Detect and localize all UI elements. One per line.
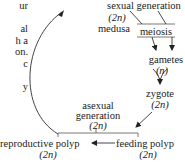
sexual-generation-label: sexual generation xyxy=(100,0,185,11)
gametes-label: gametes xyxy=(144,54,185,65)
node-sexual-generation: sexual generation xyxy=(100,0,185,11)
medusa-label: medusa xyxy=(94,23,134,34)
zygote-ploidy: (2n) xyxy=(146,99,174,110)
feeding-polyp-ploidy: (2n) xyxy=(134,149,162,160)
zygote-label: zygote xyxy=(138,88,182,99)
reproductive-polyp-label: reproductive polyp xyxy=(0,138,92,149)
feeding-polyp-label: feeding polyp xyxy=(116,138,185,149)
meiosis-label: meiosis xyxy=(137,26,175,37)
gametes-ploidy: (n) xyxy=(150,65,174,76)
curved-arrow-repro-to-sexual xyxy=(30,12,62,134)
asexual-generation-ploidy: (2n) xyxy=(84,120,112,131)
reproductive-polyp-ploidy: (2n) xyxy=(34,149,62,160)
sexual-generation-ploidy: (2n) xyxy=(104,12,130,23)
